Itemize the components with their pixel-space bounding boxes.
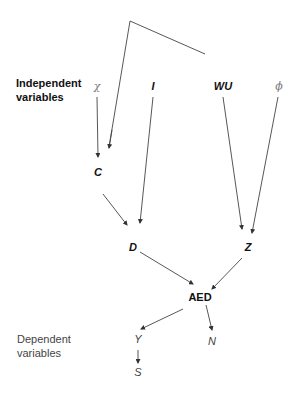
edge-phi-to-z bbox=[252, 97, 278, 233]
dependent-variables-label: Dependent variables bbox=[17, 332, 71, 360]
edge-aed-to-n bbox=[206, 305, 212, 330]
edge-wu-to-z bbox=[223, 97, 242, 229]
node-chi: χ bbox=[94, 80, 101, 93]
top-bracket-line bbox=[109, 21, 205, 147]
node-wu: WU bbox=[214, 80, 232, 92]
node-phi: ϕ bbox=[275, 80, 283, 93]
edge-d-to-aed bbox=[140, 252, 193, 284]
independent-label-line2: variables bbox=[16, 90, 81, 104]
node-s: S bbox=[134, 366, 141, 378]
independent-variables-label: Independent variables bbox=[16, 76, 81, 104]
node-z: Z bbox=[245, 241, 252, 253]
node-aed: AED bbox=[188, 291, 211, 303]
edge-z-to-aed bbox=[212, 258, 242, 289]
node-n: N bbox=[208, 335, 216, 347]
node-c: C bbox=[94, 166, 102, 178]
node-y: Y bbox=[134, 333, 141, 345]
node-i: I bbox=[151, 80, 154, 92]
edge-i-to-d bbox=[140, 97, 153, 223]
node-d: D bbox=[129, 241, 137, 253]
edge-bracket-to-c bbox=[109, 130, 112, 148]
dependent-label-line2: variables bbox=[17, 346, 71, 360]
dependent-label-line1: Dependent bbox=[17, 332, 71, 346]
edge-c-to-d bbox=[103, 194, 127, 225]
edge-aed-to-y bbox=[141, 309, 183, 329]
edge-chi-to-c bbox=[97, 97, 98, 157]
independent-label-line1: Independent bbox=[16, 76, 81, 90]
